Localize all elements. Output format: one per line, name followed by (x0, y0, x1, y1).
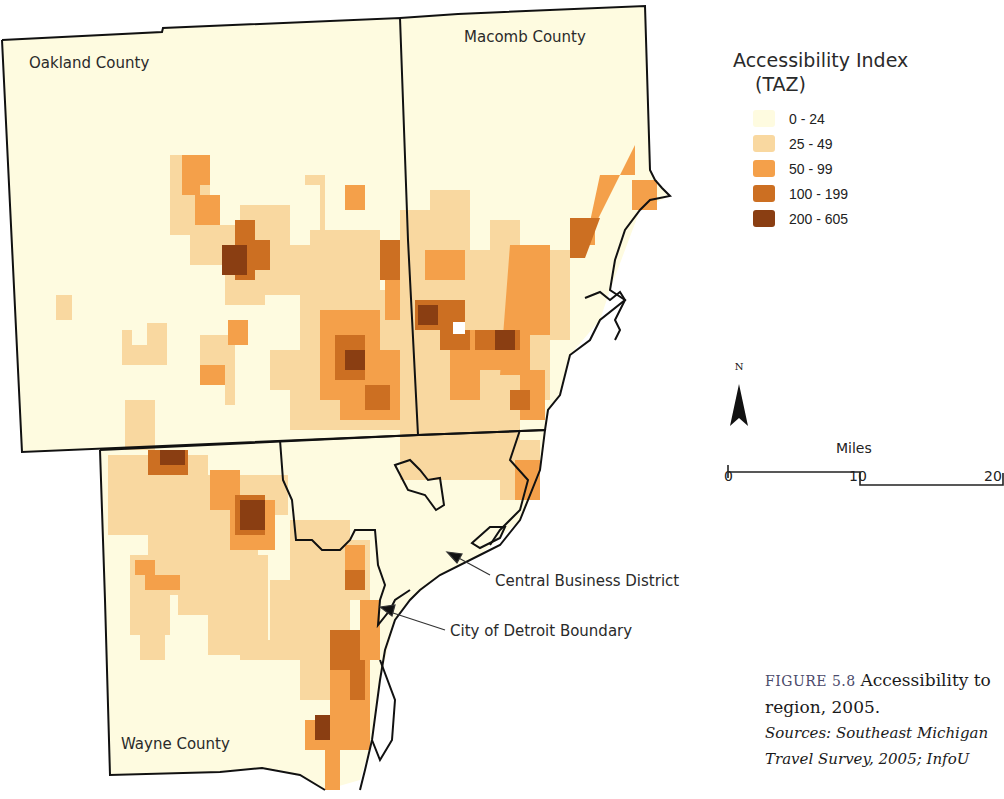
scale-title: Miles (836, 440, 872, 456)
legend-item: 100 - 199 (753, 181, 908, 206)
caption-line-1: FIGURE 5.8 Accessibility to (765, 667, 991, 694)
county-label-oakland: Oakland County (29, 54, 149, 72)
legend-item: 0 - 24 (753, 106, 908, 131)
scale-bar: Miles 0 10 20 (726, 440, 1004, 500)
legend-subtitle: (TAZ) (755, 72, 908, 96)
legend-swatch (753, 110, 775, 127)
legend-label: 50 - 99 (789, 161, 833, 177)
legend-label: 100 - 199 (789, 186, 848, 202)
figure-caption: FIGURE 5.8 Accessibility to region, 2005… (765, 667, 991, 772)
legend-label: 200 - 605 (789, 211, 848, 227)
legend-items: 0 - 24 25 - 49 50 - 99 100 - 199 200 - 6… (753, 106, 908, 231)
caption-sources-2: Travel Survey, 2005; InfoU (765, 746, 991, 772)
legend-label: 25 - 49 (789, 136, 833, 152)
legend-label: 0 - 24 (789, 111, 825, 127)
figure-title: Accessibility to (860, 670, 990, 690)
caption-sources-1: Sources: Southeast Michigan (765, 720, 991, 746)
north-arrow: N (722, 356, 756, 374)
no-data-cell (453, 322, 465, 334)
scale-tick-0: 0 (724, 468, 733, 484)
county-label-wayne: Wayne County (121, 735, 230, 753)
caption-line-2: region, 2005. (765, 694, 991, 720)
legend-title: Accessibility Index (733, 48, 908, 72)
legend-swatch (753, 185, 775, 202)
callout-detroit-boundary: City of Detroit Boundary (450, 622, 632, 640)
scale-tick-10: 10 (849, 468, 867, 484)
legend-swatch (753, 135, 775, 152)
legend-item: 50 - 99 (753, 156, 908, 181)
north-letter: N (735, 361, 744, 372)
legend-swatch (753, 210, 775, 227)
scale-tick-20: 20 (984, 468, 1002, 484)
legend-item: 25 - 49 (753, 131, 908, 156)
legend: Accessibility Index (TAZ) 0 - 24 25 - 49… (733, 48, 908, 231)
county-label-macomb: Macomb County (464, 28, 586, 46)
callout-cbd: Central Business District (495, 572, 679, 590)
north-arrow-icon (730, 384, 748, 426)
figure-label: FIGURE 5.8 (765, 673, 856, 689)
legend-swatch (753, 160, 775, 177)
legend-item: 200 - 605 (753, 206, 908, 231)
